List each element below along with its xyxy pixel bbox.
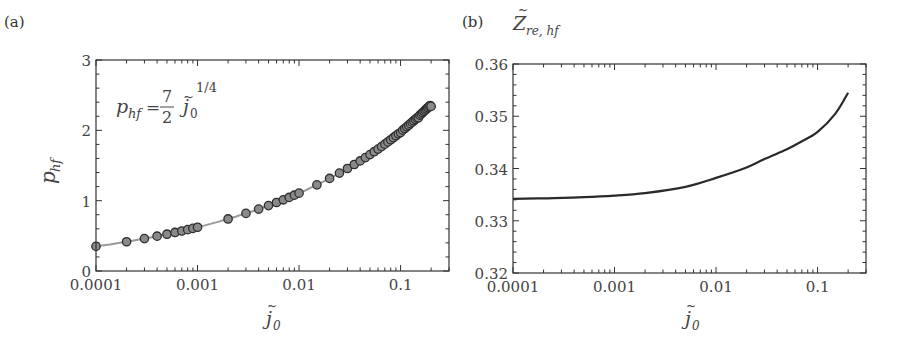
y-tick-label: 0.36 [475, 56, 508, 74]
panel-b-tick-labels: 0.00010.0010.010.10.320.330.340.350.36 [475, 56, 830, 296]
panel-b-ticks [513, 64, 866, 273]
panel-b-curve [513, 93, 848, 199]
x-tick-label: 0.01 [282, 276, 315, 294]
panel-b-frame [513, 64, 866, 273]
x-tick-label: 0.0001 [70, 276, 123, 294]
eq-equals: = [146, 97, 160, 117]
x-tick-label: 0.001 [176, 276, 219, 294]
svg-text:hf: hf [48, 157, 63, 172]
data-marker [242, 209, 250, 217]
eq-var: j [179, 95, 189, 117]
figure: (a) 0.00010.0010.010.10123 p hf = 7 2 ~ … [0, 0, 902, 359]
data-marker [295, 189, 303, 197]
y-tick-label: 0.32 [475, 265, 508, 283]
svg-text:0: 0 [692, 319, 700, 333]
data-marker [122, 238, 130, 246]
data-marker [313, 181, 321, 189]
svg-text:re, hf: re, hf [526, 24, 561, 38]
eq-var-sub: 0 [190, 107, 198, 121]
y-tick-label: 0.35 [475, 108, 508, 126]
y-tick-label: 0 [81, 263, 91, 281]
panel-b: (b) 0.00010.0010.010.10.320.330.340.350.… [462, 3, 866, 333]
data-marker [254, 205, 262, 213]
panel-a-fit-line [96, 106, 431, 246]
panel-a-equation: p hf = 7 2 ~ j 0 1/4 [116, 80, 217, 127]
panel-b-xlabel: ~ j 0 [681, 299, 700, 333]
svg-text:j: j [262, 307, 272, 329]
eq-lhs-sub: hf [128, 106, 143, 121]
x-tick-label: 0.01 [699, 278, 732, 296]
data-marker [153, 232, 161, 240]
y-tick-label: 1 [81, 193, 91, 211]
data-marker [335, 169, 343, 177]
y-tick-label: 0.33 [475, 213, 508, 231]
y-tick-label: 0.34 [475, 161, 508, 179]
eq-numerator: 7 [162, 87, 172, 106]
eq-lhs: p [116, 95, 128, 117]
x-tick-label: 0.001 [593, 278, 636, 296]
x-tick-label: 0.1 [389, 276, 413, 294]
panel-a: (a) 0.00010.0010.010.10123 p hf = 7 2 ~ … [4, 13, 449, 333]
x-tick-label: 0.1 [806, 278, 830, 296]
panel-a-tick-labels: 0.00010.0010.010.10123 [70, 52, 413, 294]
data-marker [193, 223, 201, 231]
panel-a-label: (a) [4, 13, 25, 31]
data-marker [224, 215, 232, 223]
data-marker [325, 174, 333, 182]
eq-exponent: 1/4 [196, 80, 217, 95]
svg-text:j: j [681, 307, 691, 329]
panel-b-label: (b) [462, 13, 483, 31]
eq-denominator: 2 [162, 108, 172, 127]
y-tick-label: 3 [81, 52, 91, 70]
data-marker [264, 201, 272, 209]
panel-a-data-markers [92, 101, 436, 250]
y-tick-label: 2 [81, 122, 91, 140]
panel-a-ylabel: p hf [36, 157, 63, 184]
panel-b-ylabel: ~ Z re, hf [512, 3, 561, 38]
svg-text:0: 0 [273, 319, 281, 333]
data-marker [140, 234, 148, 242]
data-marker [163, 230, 171, 238]
svg-text:Z: Z [512, 12, 527, 34]
data-marker [427, 102, 435, 110]
panel-a-xlabel: ~ j 0 [262, 299, 281, 333]
